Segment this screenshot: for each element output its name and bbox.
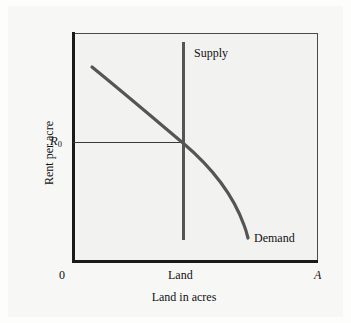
x-axis-tick-land: Land [168, 269, 193, 281]
x-axis-title: Land in acres [124, 291, 244, 303]
y-axis [72, 32, 75, 263]
equilibrium-rent-subscript: 0 [58, 139, 62, 149]
demand-curve-label: Demand [254, 232, 295, 244]
plot-frame-right-border [317, 33, 318, 263]
plot-area [72, 33, 317, 262]
figure-container: Supply Demand R0 Rent per acre 0 Land A … [0, 0, 351, 323]
y-axis-title: Rent per acre [43, 93, 55, 213]
x-axis-tick-origin: 0 [59, 269, 65, 281]
supply-curve-label: Supply [194, 47, 228, 59]
supply-curve-line [182, 42, 185, 240]
equilibrium-rent-guide-line [73, 142, 184, 143]
plot-frame-top-border [72, 33, 318, 34]
x-axis-tick-max: A [314, 269, 321, 281]
x-axis [72, 260, 318, 263]
